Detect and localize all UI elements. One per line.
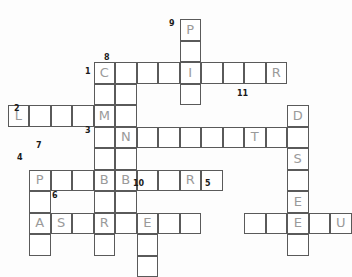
cell-letter: U (336, 216, 346, 230)
crossword-cell[interactable] (309, 213, 331, 235)
clue-number-3: 3 (85, 127, 91, 135)
clue-number-7: 7 (36, 142, 42, 150)
clue-number-10: 10 (133, 180, 144, 188)
clue-number-6: 6 (52, 192, 58, 200)
clue-number-8: 8 (104, 54, 110, 62)
clue-number-9: 9 (169, 20, 175, 28)
clue-number-11: 11 (237, 90, 248, 98)
clue-number-2: 2 (14, 105, 20, 113)
clue-number-4: 4 (17, 154, 23, 162)
crossword-cell[interactable]: U (330, 213, 352, 235)
clue-number-5: 5 (205, 180, 211, 188)
clue-number-1: 1 (85, 68, 91, 76)
